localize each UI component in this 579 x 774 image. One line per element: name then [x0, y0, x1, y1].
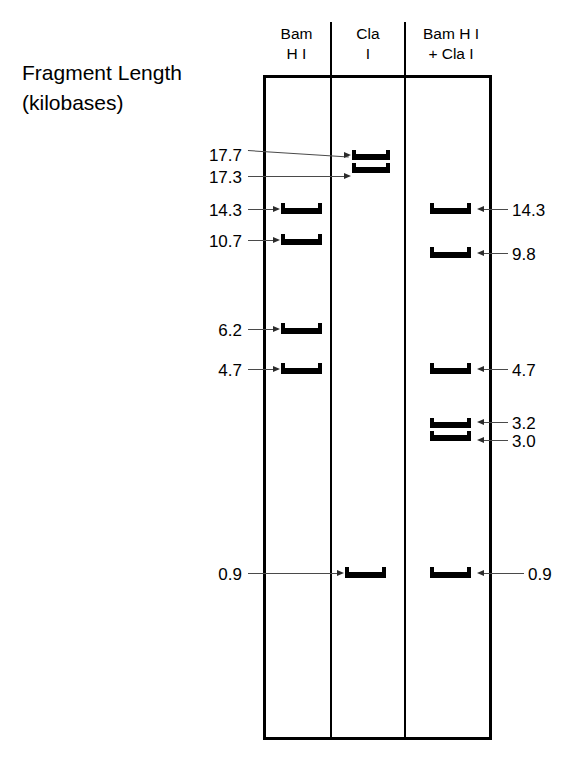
leader-right-14-3 — [484, 209, 508, 210]
arrow-right-3-2 — [477, 419, 484, 425]
leader-left-14-3 — [248, 209, 276, 210]
band-clai-17-7 — [352, 150, 390, 160]
band-bamhi-10-7 — [281, 234, 322, 245]
label-left-6-2: 6.2 — [178, 322, 242, 339]
leader-right-4-7 — [484, 369, 508, 370]
lane-divider-1 — [330, 22, 332, 740]
label-right-3-0: 3.0 — [512, 433, 536, 450]
label-right-9-8: 9.8 — [512, 246, 536, 263]
label-right-4-7: 4.7 — [512, 362, 536, 379]
arrow-right-4-7 — [477, 366, 484, 372]
band-combined-14-3 — [430, 203, 471, 214]
label-right-0-9: 0.9 — [528, 566, 552, 583]
page-title: Fragment Length (kilobases) — [22, 58, 182, 118]
arrow-right-14-3 — [477, 206, 484, 212]
arrow-17-7 — [344, 152, 351, 158]
lane-header-clai: Cla I — [332, 24, 404, 64]
band-combined-3-2 — [430, 418, 471, 428]
band-bamhi-0-9 — [345, 567, 386, 578]
arrow-17-3 — [344, 173, 351, 179]
lane-header-bamhi-clai: Bam H I + Cla I — [406, 24, 496, 64]
leader-left-10-7 — [248, 240, 276, 241]
lane-header-bamhi: Bam H I — [263, 24, 330, 64]
arrow-left-0-9 — [337, 570, 344, 576]
arrow-right-3-0 — [477, 437, 484, 443]
arrow-right-0-9 — [477, 570, 484, 576]
lane-divider-2 — [404, 22, 406, 740]
leader-left-0-9 — [248, 573, 340, 574]
label-right-14-3: 14.3 — [512, 202, 545, 219]
arrow-left-10-7 — [273, 237, 280, 243]
leader-right-9-8 — [484, 253, 508, 254]
band-bamhi-6-2 — [281, 323, 322, 334]
label-left-17-3: 17.3 — [178, 169, 242, 186]
leader-left-4-7 — [248, 369, 276, 370]
leader-left-6-2 — [248, 329, 276, 330]
gel-diagram: Fragment Length (kilobases) Bam H I Cla … — [0, 0, 579, 774]
band-combined-0-9 — [430, 567, 471, 578]
band-bamhi-4-7 — [281, 363, 322, 374]
arrow-left-4-7 — [273, 366, 280, 372]
leader-right-3-0 — [484, 440, 508, 441]
label-left-17-7: 17.7 — [178, 147, 242, 164]
arrow-left-14-3 — [273, 206, 280, 212]
label-left-0-9: 0.9 — [178, 566, 242, 583]
leader-17-3 — [248, 176, 346, 177]
band-combined-9-8 — [430, 247, 471, 258]
label-left-4-7: 4.7 — [178, 362, 242, 379]
arrow-right-9-8 — [477, 250, 484, 256]
band-clai-17-3 — [352, 163, 390, 173]
label-left-10-7: 10.7 — [178, 233, 242, 250]
band-combined-3-0 — [430, 431, 471, 441]
arrow-left-6-2 — [273, 326, 280, 332]
label-left-14-3: 14.3 — [178, 202, 242, 219]
leader-right-0-9 — [484, 573, 524, 574]
gel-box — [263, 75, 492, 740]
band-bamhi-14-3 — [281, 203, 322, 214]
label-right-3-2: 3.2 — [512, 415, 536, 432]
leader-right-3-2 — [484, 422, 508, 423]
band-combined-4-7 — [430, 363, 471, 374]
